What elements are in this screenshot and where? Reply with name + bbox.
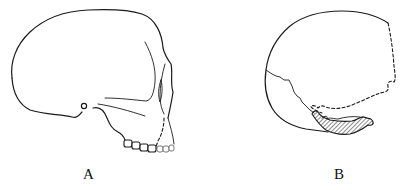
skull-a-anterior-outline	[168, 118, 174, 144]
skull-b-vault-outline	[265, 11, 388, 132]
skull-a-base-outline	[12, 78, 82, 117]
tooth	[140, 144, 148, 151]
tooth	[132, 142, 140, 149]
panel-label-b: B	[334, 167, 344, 182]
skull-a-drawing	[12, 10, 174, 152]
skull-a-zygomatic-line	[105, 42, 155, 101]
skull-a-jaw-outline	[93, 107, 125, 140]
tooth	[157, 146, 163, 152]
skull-b-suture-line	[266, 70, 314, 113]
skull-a-vault-outline	[12, 10, 173, 118]
tooth	[169, 145, 174, 151]
tooth	[124, 140, 132, 147]
skull-comparison-figure: A B	[0, 0, 409, 190]
tooth	[148, 145, 156, 152]
skull-a-teeth	[124, 140, 174, 152]
panel-label-a: A	[83, 167, 94, 182]
skull-b-fragment-upper-edge	[322, 116, 360, 119]
tooth	[163, 146, 169, 152]
skull-a-ear-opening	[81, 103, 86, 108]
illustration-canvas	[0, 0, 409, 190]
skull-a-reconstructed-jaw	[156, 118, 164, 148]
skull-b-drawing	[265, 11, 395, 134]
skull-b-reconstructed-outline	[311, 23, 395, 113]
